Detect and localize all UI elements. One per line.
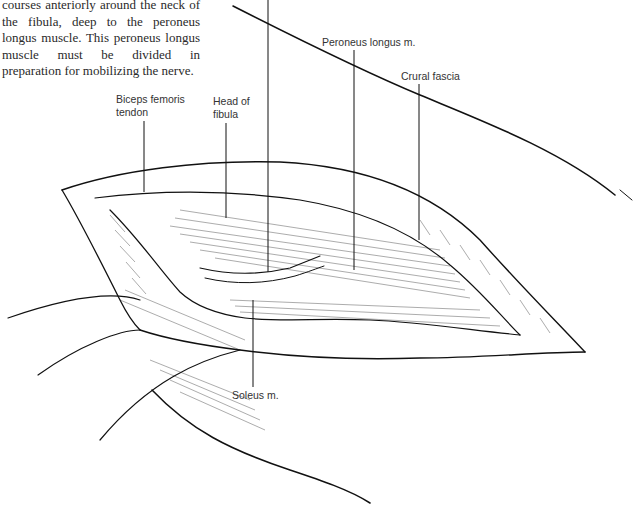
right-tick [620, 190, 632, 200]
leg-upper-contour [233, 6, 615, 195]
surgical-illustration [0, 0, 644, 506]
incision-left-flap [62, 190, 140, 330]
incision-outer-upper [62, 162, 585, 352]
calf-contour-2 [38, 330, 140, 375]
wound-inner-upper [95, 192, 520, 335]
calf-contour-4 [152, 390, 370, 503]
leader-lines [144, 0, 419, 387]
